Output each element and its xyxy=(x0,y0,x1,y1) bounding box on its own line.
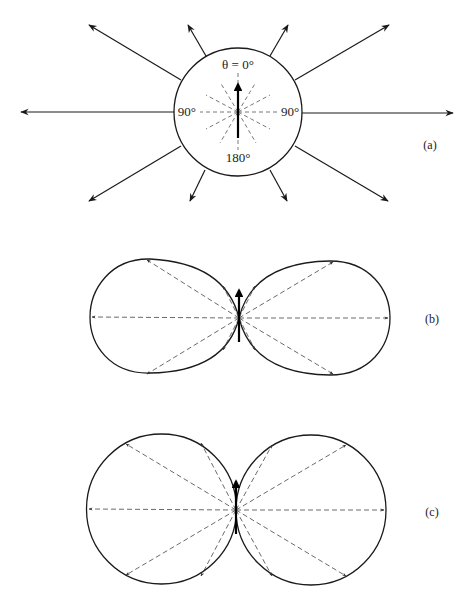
angle-label-right: 90° xyxy=(281,104,299,119)
lobe-left xyxy=(90,259,239,373)
angle-label-top: θ = 0° xyxy=(222,57,254,72)
panel-c: (c) xyxy=(87,434,439,585)
panel-b: (b) xyxy=(90,259,439,375)
panel-label-c: (c) xyxy=(425,505,438,519)
panel-label-b: (b) xyxy=(425,312,439,326)
panel-label-a: (a) xyxy=(423,138,436,152)
lobe-left xyxy=(87,434,237,584)
angle-label-bottom: 180° xyxy=(226,150,251,165)
angle-label-left: 90° xyxy=(178,104,196,119)
radiation-pattern-figure: θ = 0° 90° 90° 180° (a) (b) xyxy=(0,0,468,599)
panel-a: θ = 0° 90° 90° 180° (a) xyxy=(21,25,453,201)
